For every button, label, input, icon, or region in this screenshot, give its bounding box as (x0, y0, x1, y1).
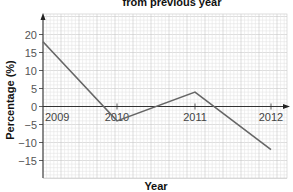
y-axis-ticks: 20151050−5−10−15 (18, 29, 43, 167)
y-tick-label: 20 (25, 29, 37, 41)
line-chart: from previous year 20151050−5−10−15 2009… (0, 0, 293, 192)
x-tick-label: 2011 (183, 111, 207, 123)
y-tick-label: 10 (25, 65, 37, 77)
x-tick-label: 2012 (259, 111, 283, 123)
y-tick-label: 15 (25, 47, 37, 59)
grid (43, 14, 287, 179)
y-tick-label: −5 (24, 119, 37, 131)
y-tick-label: −15 (18, 155, 37, 167)
x-axis-arrow-icon (283, 104, 290, 109)
y-tick-label: −10 (18, 137, 37, 149)
y-tick-label: 5 (31, 83, 37, 95)
x-axis-label: Year (144, 180, 168, 192)
x-tick-label: 2009 (45, 111, 69, 123)
y-axis-label: Percentage (%) (4, 60, 16, 140)
chart-title: from previous year (122, 0, 222, 8)
y-tick-label: 0 (31, 101, 37, 113)
